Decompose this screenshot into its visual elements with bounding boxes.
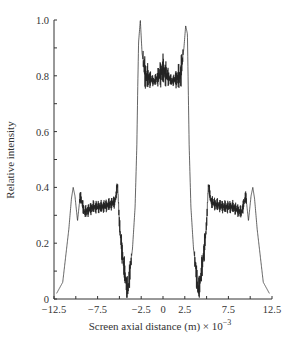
x-tick-label: 0	[160, 304, 165, 315]
y-tick-label: 0.4	[36, 182, 50, 193]
x-tick-label: 12.5	[263, 304, 281, 315]
x-tick-label: −2.5	[132, 304, 151, 315]
x-tick-label: 2.5	[178, 304, 191, 315]
intensity-chart: 00.20.40.60.81.0 −12.5−7.5−2.502.57.512.…	[0, 0, 296, 349]
y-axis-title: Relative intensity	[4, 121, 16, 199]
x-tick-label: −7.5	[88, 304, 107, 315]
x-axis-title: Screen axial distance (m) × 10−3	[89, 318, 232, 333]
y-tick-label: 0.6	[36, 127, 49, 138]
axes: 00.20.40.60.81.0 −12.5−7.5−2.502.57.512.…	[36, 15, 281, 315]
x-tick-label: 7.5	[222, 304, 235, 315]
intensity-curve	[57, 21, 270, 298]
y-tick-label: 1.0	[36, 15, 49, 26]
y-tick-label: 0.2	[36, 238, 49, 249]
y-tick-label: 0.8	[36, 71, 49, 82]
x-tick-label: −12.5	[42, 304, 66, 315]
plot-area	[57, 21, 270, 298]
